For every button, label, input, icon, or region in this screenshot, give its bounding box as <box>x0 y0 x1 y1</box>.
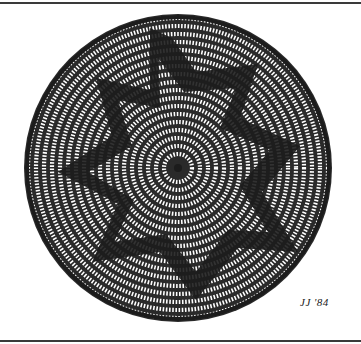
basket-disc <box>24 14 332 322</box>
basket-illustration <box>0 0 361 344</box>
artist-signature: JJ '84 <box>300 296 329 308</box>
bottom-rule <box>0 340 361 342</box>
